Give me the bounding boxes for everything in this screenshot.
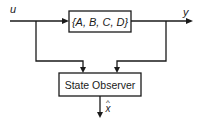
estimate-hat-accent: ^: [106, 98, 110, 107]
block-diagram: {A, B, C, D} State Observer u y x ^: [0, 0, 200, 124]
output-arrowhead: [186, 18, 193, 24]
estimate-arrowhead: [97, 112, 103, 118]
output-label-y: y: [182, 6, 190, 18]
input-label-u: u: [10, 3, 16, 15]
input-branch-arrowhead: [80, 67, 86, 73]
plant-block-label: {A, B, C, D}: [72, 16, 129, 28]
input-arrowhead: [62, 18, 69, 24]
output-branch-arrowhead: [114, 67, 120, 73]
state-observer-label: State Observer: [65, 79, 136, 91]
